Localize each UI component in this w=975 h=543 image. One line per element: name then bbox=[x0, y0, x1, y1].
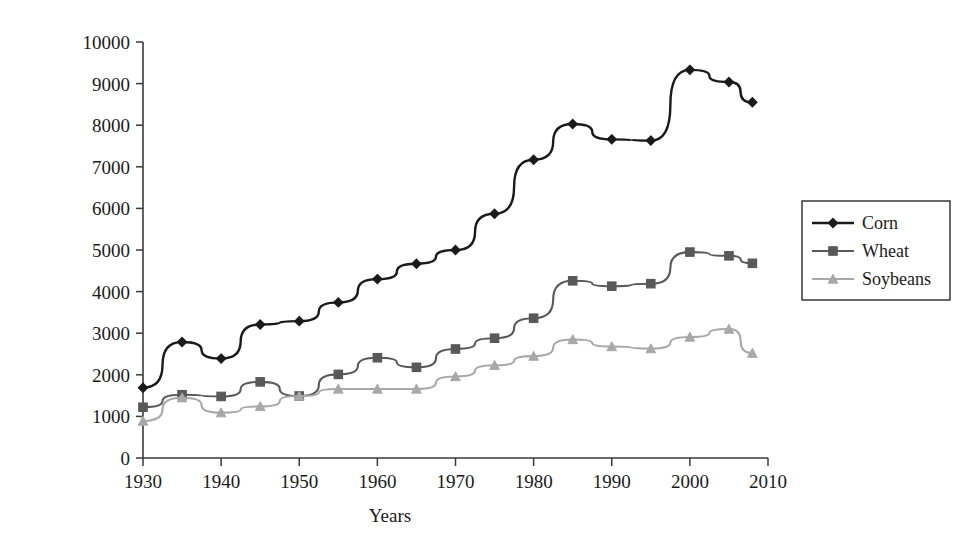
data-point-marker bbox=[829, 247, 837, 255]
y-tick-label: 10000 bbox=[83, 32, 131, 53]
data-point-marker bbox=[295, 317, 304, 326]
x-tick-label: 1960 bbox=[358, 471, 396, 492]
data-point-marker bbox=[217, 354, 226, 363]
series-wheat bbox=[139, 248, 757, 412]
y-tick-label: 8000 bbox=[92, 115, 130, 136]
data-point-marker bbox=[685, 65, 694, 74]
data-point-marker bbox=[334, 298, 343, 307]
data-point-marker bbox=[177, 337, 186, 346]
data-point-marker bbox=[217, 392, 225, 400]
data-point-marker bbox=[748, 98, 757, 107]
data-point-marker bbox=[139, 403, 147, 411]
data-point-marker bbox=[138, 383, 147, 392]
x-tick-label: 1990 bbox=[593, 471, 631, 492]
data-point-marker bbox=[490, 334, 498, 342]
legend-label: Soybeans bbox=[862, 269, 931, 289]
series-line-corn bbox=[143, 70, 752, 388]
y-tick-label: 2000 bbox=[92, 365, 130, 386]
data-point-marker bbox=[608, 282, 616, 290]
y-tick-label: 4000 bbox=[92, 282, 130, 303]
data-point-marker bbox=[568, 119, 577, 128]
x-tick-label: 2000 bbox=[671, 471, 709, 492]
x-tick-label: 1980 bbox=[515, 471, 553, 492]
y-tick-label: 7000 bbox=[92, 157, 130, 178]
data-point-marker bbox=[725, 252, 733, 260]
data-series-group bbox=[138, 65, 757, 425]
y-tick-label: 3000 bbox=[92, 323, 130, 344]
data-point-marker bbox=[568, 277, 576, 285]
data-point-marker bbox=[646, 136, 655, 145]
x-axis-ticks: 193019401950196019701980199020002010 bbox=[124, 458, 787, 492]
data-point-marker bbox=[451, 345, 459, 353]
x-tick-label: 1970 bbox=[437, 471, 475, 492]
x-tick-label: 1930 bbox=[124, 471, 162, 492]
x-tick-label: 1950 bbox=[280, 471, 318, 492]
series-line-wheat bbox=[143, 252, 752, 407]
data-point-marker bbox=[373, 354, 381, 362]
data-point-marker bbox=[451, 245, 460, 254]
data-point-marker bbox=[686, 248, 694, 256]
y-tick-label: 1000 bbox=[92, 406, 130, 427]
data-point-marker bbox=[529, 155, 538, 164]
series-soybeans bbox=[138, 324, 757, 425]
x-tick-label: 2010 bbox=[749, 471, 787, 492]
data-point-marker bbox=[412, 363, 420, 371]
data-point-marker bbox=[490, 209, 499, 218]
data-point-marker bbox=[647, 279, 655, 287]
y-tick-label: 9000 bbox=[92, 74, 130, 95]
legend-label: Wheat bbox=[862, 241, 909, 261]
data-point-marker bbox=[256, 320, 265, 329]
legend-label: Corn bbox=[862, 213, 898, 233]
x-tick-label: 1940 bbox=[202, 471, 240, 492]
data-point-marker bbox=[412, 259, 421, 268]
data-point-marker bbox=[334, 370, 342, 378]
data-point-marker bbox=[724, 77, 733, 86]
y-tick-label: 6000 bbox=[92, 198, 130, 219]
data-point-marker bbox=[529, 314, 537, 322]
data-point-marker bbox=[748, 259, 756, 267]
data-point-marker bbox=[256, 378, 264, 386]
chart-plot-area: 0100020003000400050006000700080009000100… bbox=[0, 0, 975, 543]
y-axis-ticks: 0100020003000400050006000700080009000100… bbox=[83, 32, 144, 469]
series-line-soybeans bbox=[143, 329, 752, 421]
series-corn bbox=[138, 65, 757, 392]
yield-line-chart: Yield (kg/ha) Years 01000200030004000500… bbox=[0, 0, 975, 543]
data-point-marker bbox=[373, 275, 382, 284]
y-tick-label: 5000 bbox=[92, 240, 130, 261]
data-point-marker bbox=[607, 135, 616, 144]
y-tick-label: 0 bbox=[121, 448, 131, 469]
chart-legend: CornWheatSoybeans bbox=[802, 201, 950, 300]
